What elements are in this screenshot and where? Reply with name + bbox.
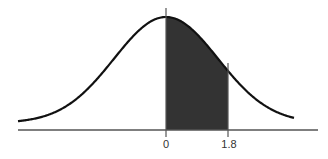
normal-distribution-chart: 0 1.8 xyxy=(0,0,328,159)
tick-label-0: 0 xyxy=(163,138,169,150)
tick-label-1.8: 1.8 xyxy=(221,138,236,150)
normal-curve xyxy=(18,17,294,121)
